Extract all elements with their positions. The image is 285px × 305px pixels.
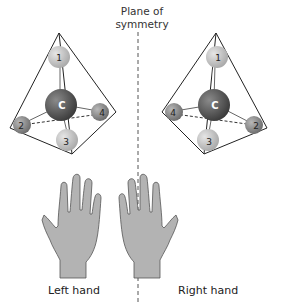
left-atom-3-label: 3 bbox=[63, 137, 69, 147]
left-atom-2-label: 2 bbox=[18, 121, 24, 131]
right-carbon-label: C bbox=[211, 100, 218, 111]
left-molecule: 1 2 3 4 C bbox=[10, 33, 116, 154]
chirality-diagram: 1 2 3 4 C 1 4 3 2 C bbox=[0, 0, 285, 305]
right-molecule: 1 4 3 2 C bbox=[162, 33, 267, 154]
left-atom-1-label: 1 bbox=[56, 53, 62, 63]
right-atom-4-label: 4 bbox=[170, 108, 176, 118]
left-hand-icon bbox=[42, 174, 101, 278]
right-atom-3-label: 3 bbox=[206, 137, 212, 147]
left-hand-caption: Left hand bbox=[48, 284, 100, 297]
left-carbon-label: C bbox=[58, 100, 65, 111]
right-atom-1-label: 1 bbox=[215, 53, 221, 63]
right-atom-2-label: 2 bbox=[253, 121, 259, 131]
right-hand-icon bbox=[119, 174, 178, 278]
left-atom-4-label: 4 bbox=[99, 108, 105, 118]
right-hand-caption: Right hand bbox=[178, 284, 238, 297]
